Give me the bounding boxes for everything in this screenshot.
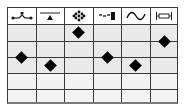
grid-border [7, 7, 178, 104]
symbol-grid [7, 7, 178, 104]
